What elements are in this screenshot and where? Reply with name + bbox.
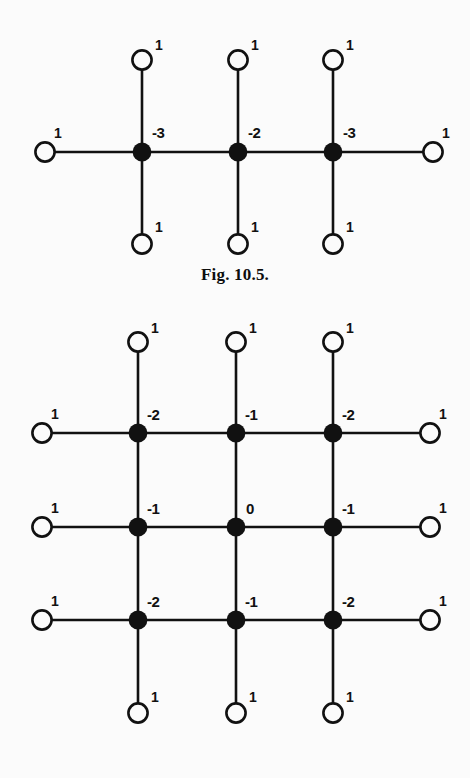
filled-vertex (227, 518, 246, 537)
vertex-label: 1 (346, 37, 354, 53)
open-vertex (128, 703, 147, 722)
filled-vertex (324, 143, 343, 162)
vertex-label: 1 (251, 37, 259, 53)
figure-10-5-diagram: 11111111-3-2-3 (0, 0, 470, 300)
filled-vertex (324, 611, 343, 630)
filled-vertex (129, 611, 148, 630)
open-vertex (128, 332, 147, 351)
vertex-label: 1 (439, 593, 447, 609)
vertex-label: 1 (155, 219, 163, 235)
filled-vertex (324, 518, 343, 537)
open-vertex (226, 703, 245, 722)
filled-vertex (227, 424, 246, 443)
open-vertex (132, 234, 151, 253)
vertex-label: 1 (51, 593, 59, 609)
vertex-label: 1 (439, 406, 447, 422)
figure-10-6: 111111111111-2-1-2-10-1-2-1-2 Fig. 10.6. (0, 300, 470, 778)
vertex-label: 1 (439, 500, 447, 516)
open-vertex (32, 423, 51, 442)
vertex-label: -1 (245, 593, 258, 610)
vertex-label: 1 (151, 320, 159, 336)
vertex-label: -3 (343, 124, 356, 141)
vertex-label: -2 (147, 406, 160, 423)
vertex-label: 1 (155, 37, 163, 53)
vertex-label: 1 (442, 125, 450, 141)
vertex-label: 1 (151, 689, 159, 705)
open-vertex (228, 50, 247, 69)
vertex-label: 1 (346, 689, 354, 705)
figure-10-6-diagram: 111111111111-2-1-2-10-1-2-1-2 (0, 300, 470, 778)
vertex-label: -1 (342, 500, 355, 517)
vertex-label: 1 (346, 320, 354, 336)
open-vertex (423, 142, 442, 161)
open-vertex (35, 142, 54, 161)
vertex-label: 0 (246, 500, 254, 517)
open-vertex (420, 423, 439, 442)
vertex-label: -1 (147, 500, 160, 517)
open-vertex (226, 332, 245, 351)
vertex-label: 1 (251, 219, 259, 235)
vertex-label: 1 (346, 219, 354, 235)
vertex-label: -1 (245, 406, 258, 423)
filled-vertex (129, 424, 148, 443)
vertex-label: 1 (249, 320, 257, 336)
filled-vertex (227, 611, 246, 630)
open-vertex (420, 610, 439, 629)
vertex-label: -2 (342, 593, 355, 610)
figure-10-5-caption: Fig. 10.5. (0, 265, 470, 285)
filled-vertex (229, 143, 248, 162)
open-vertex (323, 234, 342, 253)
vertex-label: 1 (54, 125, 62, 141)
open-vertex (323, 332, 342, 351)
vertex-label: 1 (51, 500, 59, 516)
vertex-label: -3 (152, 124, 165, 141)
filled-vertex (129, 518, 148, 537)
filled-vertex (324, 424, 343, 443)
open-vertex (132, 50, 151, 69)
open-vertex (32, 610, 51, 629)
vertex-label: -2 (342, 406, 355, 423)
open-vertex (323, 703, 342, 722)
vertex-label: -2 (147, 593, 160, 610)
open-vertex (228, 234, 247, 253)
figure-10-5: 11111111-3-2-3 Fig. 10.5. (0, 0, 470, 300)
open-vertex (323, 50, 342, 69)
open-vertex (32, 517, 51, 536)
filled-vertex (133, 143, 152, 162)
vertex-label: 1 (51, 406, 59, 422)
open-vertex (420, 517, 439, 536)
vertex-label: -2 (248, 124, 261, 141)
vertex-label: 1 (249, 689, 257, 705)
